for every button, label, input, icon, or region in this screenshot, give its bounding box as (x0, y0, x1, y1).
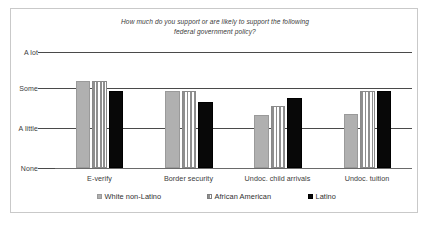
bar-african-american-e-verify[interactable] (92, 81, 107, 168)
bar-african-american-undoc-tuition[interactable] (360, 91, 375, 168)
y-axis-tick-labels: A lot Some A little None (12, 52, 38, 168)
x-tick-label-border-security: Border security (144, 174, 233, 183)
legend-label-white-non-latino: White non-Latino (105, 192, 162, 201)
chart-title: How much do you support or are likely to… (95, 17, 335, 36)
legend-label-african-american: African American (215, 192, 272, 201)
legend-item-latino[interactable]: Latino (308, 192, 336, 201)
bar-african-american-undoc-child-arrivals[interactable] (271, 106, 286, 168)
tick-stub-none (38, 168, 55, 169)
chart-legend: White non-Latino African American Latino (55, 192, 412, 206)
legend-label-latino: Latino (316, 192, 336, 201)
bar-series-layer (55, 52, 412, 168)
chart-screenshot: How much do you support or are likely to… (0, 0, 429, 225)
bar-latino-e-verify[interactable] (109, 91, 124, 168)
bar-white-non-latino-undoc-child-arrivals[interactable] (254, 115, 269, 168)
latino-swatch (308, 194, 313, 199)
tick-stub-some (38, 88, 55, 89)
x-tick-label-undoc-tuition: Undoc. tuition (322, 174, 412, 183)
y-tick-label-a-lot: A lot (24, 49, 38, 56)
white-non-latino-swatch (97, 194, 102, 199)
y-tick-label-a-little: A little (19, 125, 38, 132)
bar-white-non-latino-undoc-tuition[interactable] (344, 114, 359, 168)
x-axis-tick-labels: E-verify Border security Undoc. child ar… (55, 174, 412, 186)
bar-latino-border-security[interactable] (198, 102, 213, 168)
chart-title-line-2: federal government policy? (95, 27, 335, 37)
tick-stub-a-lot (38, 52, 55, 53)
bar-latino-undoc-tuition[interactable] (377, 91, 392, 168)
gridline-none-baseline (55, 168, 412, 169)
chart-title-line-1: How much do you support or are likely to… (95, 17, 335, 27)
y-tick-label-none: None (21, 165, 38, 172)
y-tick-label-some: Some (19, 85, 38, 92)
african-american-swatch (207, 194, 212, 199)
bar-latino-undoc-child-arrivals[interactable] (287, 98, 302, 168)
bar-african-american-border-security[interactable] (182, 91, 197, 168)
legend-item-african-american[interactable]: African American (207, 192, 271, 201)
legend-item-white-non-latino[interactable]: White non-Latino (97, 192, 161, 201)
x-tick-label-e-verify: E-verify (55, 174, 144, 183)
x-tick-label-undoc-child-arrivals: Undoc. child arrivals (233, 174, 322, 183)
bar-white-non-latino-e-verify[interactable] (76, 81, 91, 168)
bar-white-non-latino-border-security[interactable] (165, 91, 180, 168)
tick-stub-a-little (38, 128, 55, 129)
